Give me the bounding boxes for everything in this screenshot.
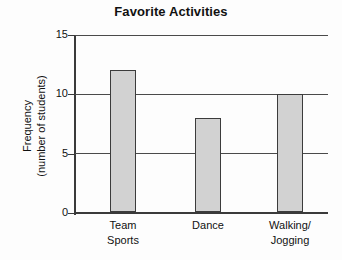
bar-dance (195, 118, 221, 212)
plot-area (75, 35, 328, 213)
y-tick-label-10: 10 (36, 87, 68, 99)
x-label-team-sports-line-1: Team (78, 218, 168, 233)
x-label-team-sports-line-2: Sports (78, 233, 168, 248)
bar-team-sports (110, 70, 136, 212)
x-label-walking-jogging-line-1: Walking/ (245, 218, 335, 233)
y-tick-label-5: 5 (36, 147, 68, 159)
y-tick-label-0: 0 (36, 206, 68, 218)
bar-walking-jogging (277, 94, 303, 212)
y-axis-label-line-2: (number of students) (34, 46, 48, 206)
x-label-walking-jogging: Walking/ Jogging (245, 218, 335, 248)
gridline-15 (75, 35, 328, 36)
chart-title: Favorite Activities (0, 4, 342, 19)
x-label-dance-line-1: Dance (163, 218, 253, 233)
y-tick-label-15: 15 (36, 28, 68, 40)
y-axis-label-line-1: Frequency (20, 46, 34, 206)
bar-chart-figure: Favorite Activities Frequency (number of… (0, 0, 342, 260)
y-axis-label: Frequency (number of students) (20, 46, 48, 206)
x-label-walking-jogging-line-2: Jogging (245, 233, 335, 248)
x-label-dance: Dance (163, 218, 253, 233)
x-axis-line (75, 212, 328, 214)
x-label-team-sports: Team Sports (78, 218, 168, 248)
